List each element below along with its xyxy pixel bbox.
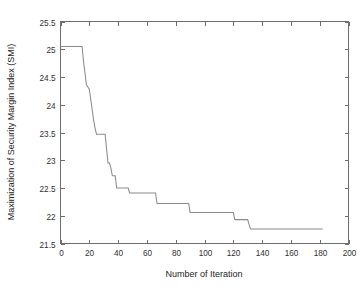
convergence-line-chart: 21.52222.52323.52424.52525.5 02040608010… <box>0 0 364 291</box>
y-tick-label: 24.5 <box>40 74 56 83</box>
x-tick-label: 120 <box>227 249 241 258</box>
y-tick-label: 22 <box>46 213 56 222</box>
y-axis-title: Maximization of Security Margin Index (S… <box>6 44 16 221</box>
x-axis-title: Number of Iteration <box>165 269 242 279</box>
y-tick-label: 22.5 <box>40 185 56 194</box>
y-tick-label: 21.5 <box>40 241 56 250</box>
y-tick-label: 25.5 <box>40 19 56 28</box>
x-tick-label: 180 <box>314 249 328 258</box>
y-tick-label: 24 <box>46 102 56 111</box>
x-tick-label: 20 <box>85 249 95 258</box>
y-tick-label: 25 <box>46 46 56 55</box>
x-tick-label: 40 <box>114 249 124 258</box>
figure-container: 21.52222.52323.52424.52525.5 02040608010… <box>0 0 364 291</box>
x-tick-label: 140 <box>256 249 270 258</box>
x-tick-label: 160 <box>285 249 299 258</box>
x-tick-label: 100 <box>199 249 213 258</box>
x-tick-label: 60 <box>143 249 153 258</box>
x-tick-label: 80 <box>172 249 182 258</box>
x-tick-label: 0 <box>59 249 64 258</box>
y-tick-label: 23.5 <box>40 130 56 139</box>
y-tick-label: 23 <box>46 157 56 166</box>
x-tick-label: 200 <box>343 249 357 258</box>
